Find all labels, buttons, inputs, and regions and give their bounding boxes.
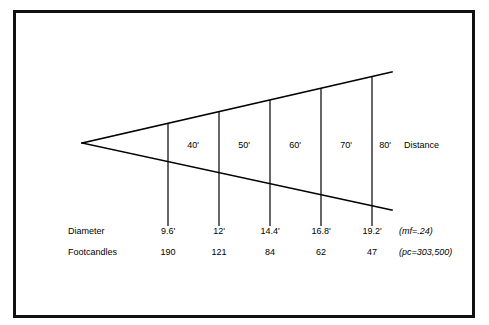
diameter-value-2: 12' <box>213 226 225 237</box>
distance-row-label: Distance <box>404 140 439 151</box>
distance-value-5: 80' <box>379 140 391 151</box>
footcandles-value-4: 62 <box>316 247 326 258</box>
distance-value-1: 40' <box>187 140 199 151</box>
footcandles-value-1: 190 <box>160 247 175 258</box>
maintenance-factor-note: (mf=.24) <box>399 226 433 237</box>
diameter-row-label: Diameter <box>68 226 105 237</box>
diameter-value-5: 19.2' <box>362 226 381 237</box>
cone-lower-edge <box>82 143 392 210</box>
footcandles-value-3: 84 <box>265 247 275 258</box>
diameter-value-3: 14.4' <box>260 226 279 237</box>
distance-value-3: 60' <box>289 140 301 151</box>
beam-diagram-svg <box>0 0 489 325</box>
distance-value-2: 50' <box>238 140 250 151</box>
figure-root: 40' 50' 60' 70' 80' Distance Diameter 9.… <box>0 0 489 325</box>
footcandles-value-5: 47 <box>367 247 377 258</box>
footcandles-value-2: 121 <box>211 247 226 258</box>
footcandles-row-label: Footcandles <box>68 247 117 258</box>
diameter-value-4: 16.8' <box>311 226 330 237</box>
peak-candlepower-note: (pc=303,500) <box>399 247 452 258</box>
distance-value-4: 70' <box>340 140 352 151</box>
diameter-value-1: 9.6' <box>161 226 175 237</box>
cone-upper-edge <box>82 72 392 143</box>
